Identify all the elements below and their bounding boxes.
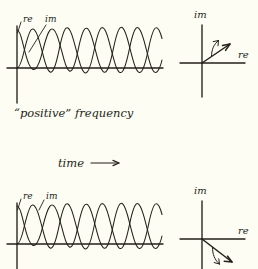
bottom-plot-im-leader bbox=[39, 200, 44, 210]
positive-frequency-caption: “positive” frequency bbox=[14, 106, 134, 120]
bottom-time-plot: re im bbox=[7, 191, 163, 269]
top-time-plot: re im “positive” frequency bbox=[7, 14, 163, 120]
top-phasor: im re bbox=[180, 9, 249, 97]
bottom-phasor: im re bbox=[180, 185, 249, 269]
bottom-plot-im-label: im bbox=[46, 191, 57, 201]
time-axis-annotation: time bbox=[58, 156, 119, 170]
top-plot-im-wave bbox=[17, 28, 162, 73]
bottom-phasor-im-label: im bbox=[194, 185, 207, 196]
figure-canvas: re im “positive” frequency im re time bbox=[0, 0, 258, 269]
top-plot-re-label: re bbox=[23, 14, 33, 24]
bottom-phasor-vector bbox=[202, 239, 232, 262]
top-phasor-re-label: re bbox=[238, 49, 249, 60]
time-label: time bbox=[58, 156, 84, 170]
top-plot-re-wave bbox=[17, 27, 162, 72]
bottom-phasor-re-label: re bbox=[238, 225, 249, 236]
frequency-figure: re im “positive” frequency im re time bbox=[0, 0, 258, 269]
top-phasor-vector bbox=[202, 44, 230, 63]
top-plot-im-label: im bbox=[45, 14, 56, 24]
top-phasor-im-label: im bbox=[194, 9, 207, 20]
bottom-plot-re-label: re bbox=[23, 191, 33, 201]
